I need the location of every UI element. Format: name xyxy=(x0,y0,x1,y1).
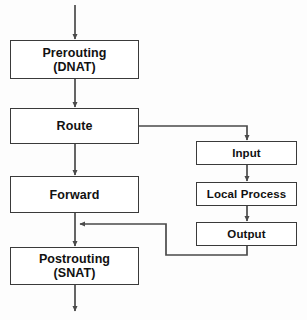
node-route[interactable]: Route xyxy=(10,108,139,144)
node-output[interactable]: Output xyxy=(196,222,297,246)
node-forward[interactable]: Forward xyxy=(10,176,139,213)
edge-route-to-input xyxy=(139,126,247,140)
node-postrouting[interactable]: Postrouting (SNAT) xyxy=(10,247,139,285)
node-forward-label: Forward xyxy=(49,188,99,202)
node-postrouting-label: Postrouting (SNAT) xyxy=(39,252,110,280)
node-prerouting[interactable]: Prerouting (DNAT) xyxy=(10,40,139,79)
node-output-label: Output xyxy=(227,228,265,241)
node-input[interactable]: Input xyxy=(196,141,297,165)
node-prerouting-label: Prerouting (DNAT) xyxy=(42,46,106,74)
flowchart-diagram: Prerouting (DNAT) Route Forward Postrout… xyxy=(0,0,307,320)
node-input-label: Input xyxy=(232,147,261,160)
node-local-process[interactable]: Local Process xyxy=(196,182,297,206)
node-route-label: Route xyxy=(57,119,93,133)
node-local-process-label: Local Process xyxy=(207,188,286,201)
